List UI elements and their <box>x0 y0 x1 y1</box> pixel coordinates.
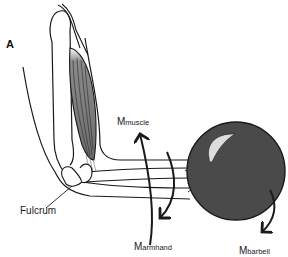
elbow-joint <box>62 167 82 186</box>
panel-label: A <box>6 38 14 50</box>
arm-illustration <box>0 0 288 257</box>
m-muscle-label: Mmuscle <box>117 117 149 127</box>
humerus-bone-inner <box>52 42 66 175</box>
arm-outline-front <box>85 38 195 160</box>
m-barbell-label: Mbarbell <box>239 246 270 256</box>
forearm-bone-upper <box>88 168 190 172</box>
fulcrum-label: Fulcrum <box>20 206 56 216</box>
m-armhand-label: Marmhand <box>134 242 172 252</box>
biceps-muscle <box>70 48 97 160</box>
lever-diagram: A Fulcrum Mmuscle Marmhand Mbarbell <box>0 0 288 257</box>
barbell-ball <box>187 122 285 220</box>
m-armhand-arrow <box>160 152 174 218</box>
m-muscle-arrow <box>140 134 152 245</box>
arm-outline-back <box>23 67 190 199</box>
